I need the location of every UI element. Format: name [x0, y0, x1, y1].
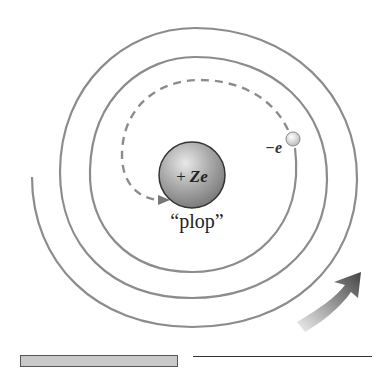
rotation-arrow-icon: [297, 272, 361, 332]
caption-placeholder-box: [20, 355, 178, 367]
electron-label: −e: [265, 139, 282, 156]
divider-line: [193, 356, 372, 357]
plop-label: “plop”: [170, 210, 223, 233]
nucleus: +Ze: [159, 142, 225, 208]
nucleus-label: +Ze: [176, 167, 208, 186]
